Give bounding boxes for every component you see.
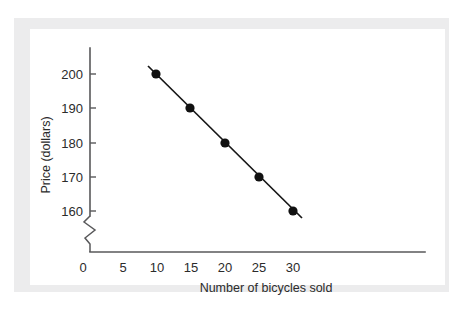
data-point-10-200 — [151, 69, 160, 78]
x-tick-label-25: 25 — [252, 260, 266, 275]
figure-root: 200 190 180 170 160 0 5 10 15 20 25 30 P… — [0, 0, 463, 310]
y-tick-label-160: 160 — [61, 204, 83, 219]
y-axis-break-icon — [84, 216, 95, 252]
y-axis-title: Price (dollars) — [39, 116, 53, 193]
data-point-30-160 — [288, 206, 297, 215]
price-vs-bicycles-chart: 200 190 180 170 160 0 5 10 15 20 25 30 P… — [0, 0, 463, 310]
data-point-15-190 — [185, 103, 194, 112]
y-tick-label-200: 200 — [61, 67, 83, 82]
x-tick-label-15: 15 — [184, 260, 198, 275]
x-tick-label-5: 5 — [119, 260, 126, 275]
x-tick-label-0: 0 — [79, 260, 86, 275]
x-tick-label-20: 20 — [218, 260, 232, 275]
y-tick-label-190: 190 — [61, 101, 83, 116]
x-axis-title: Number of bicycles sold — [200, 281, 333, 295]
y-tick-label-170: 170 — [61, 170, 83, 185]
x-tick-label-10: 10 — [150, 260, 164, 275]
y-tick-label-180: 180 — [61, 136, 83, 151]
data-point-25-170 — [254, 172, 263, 181]
data-point-20-180 — [220, 138, 229, 147]
x-tick-label-30: 30 — [286, 260, 300, 275]
